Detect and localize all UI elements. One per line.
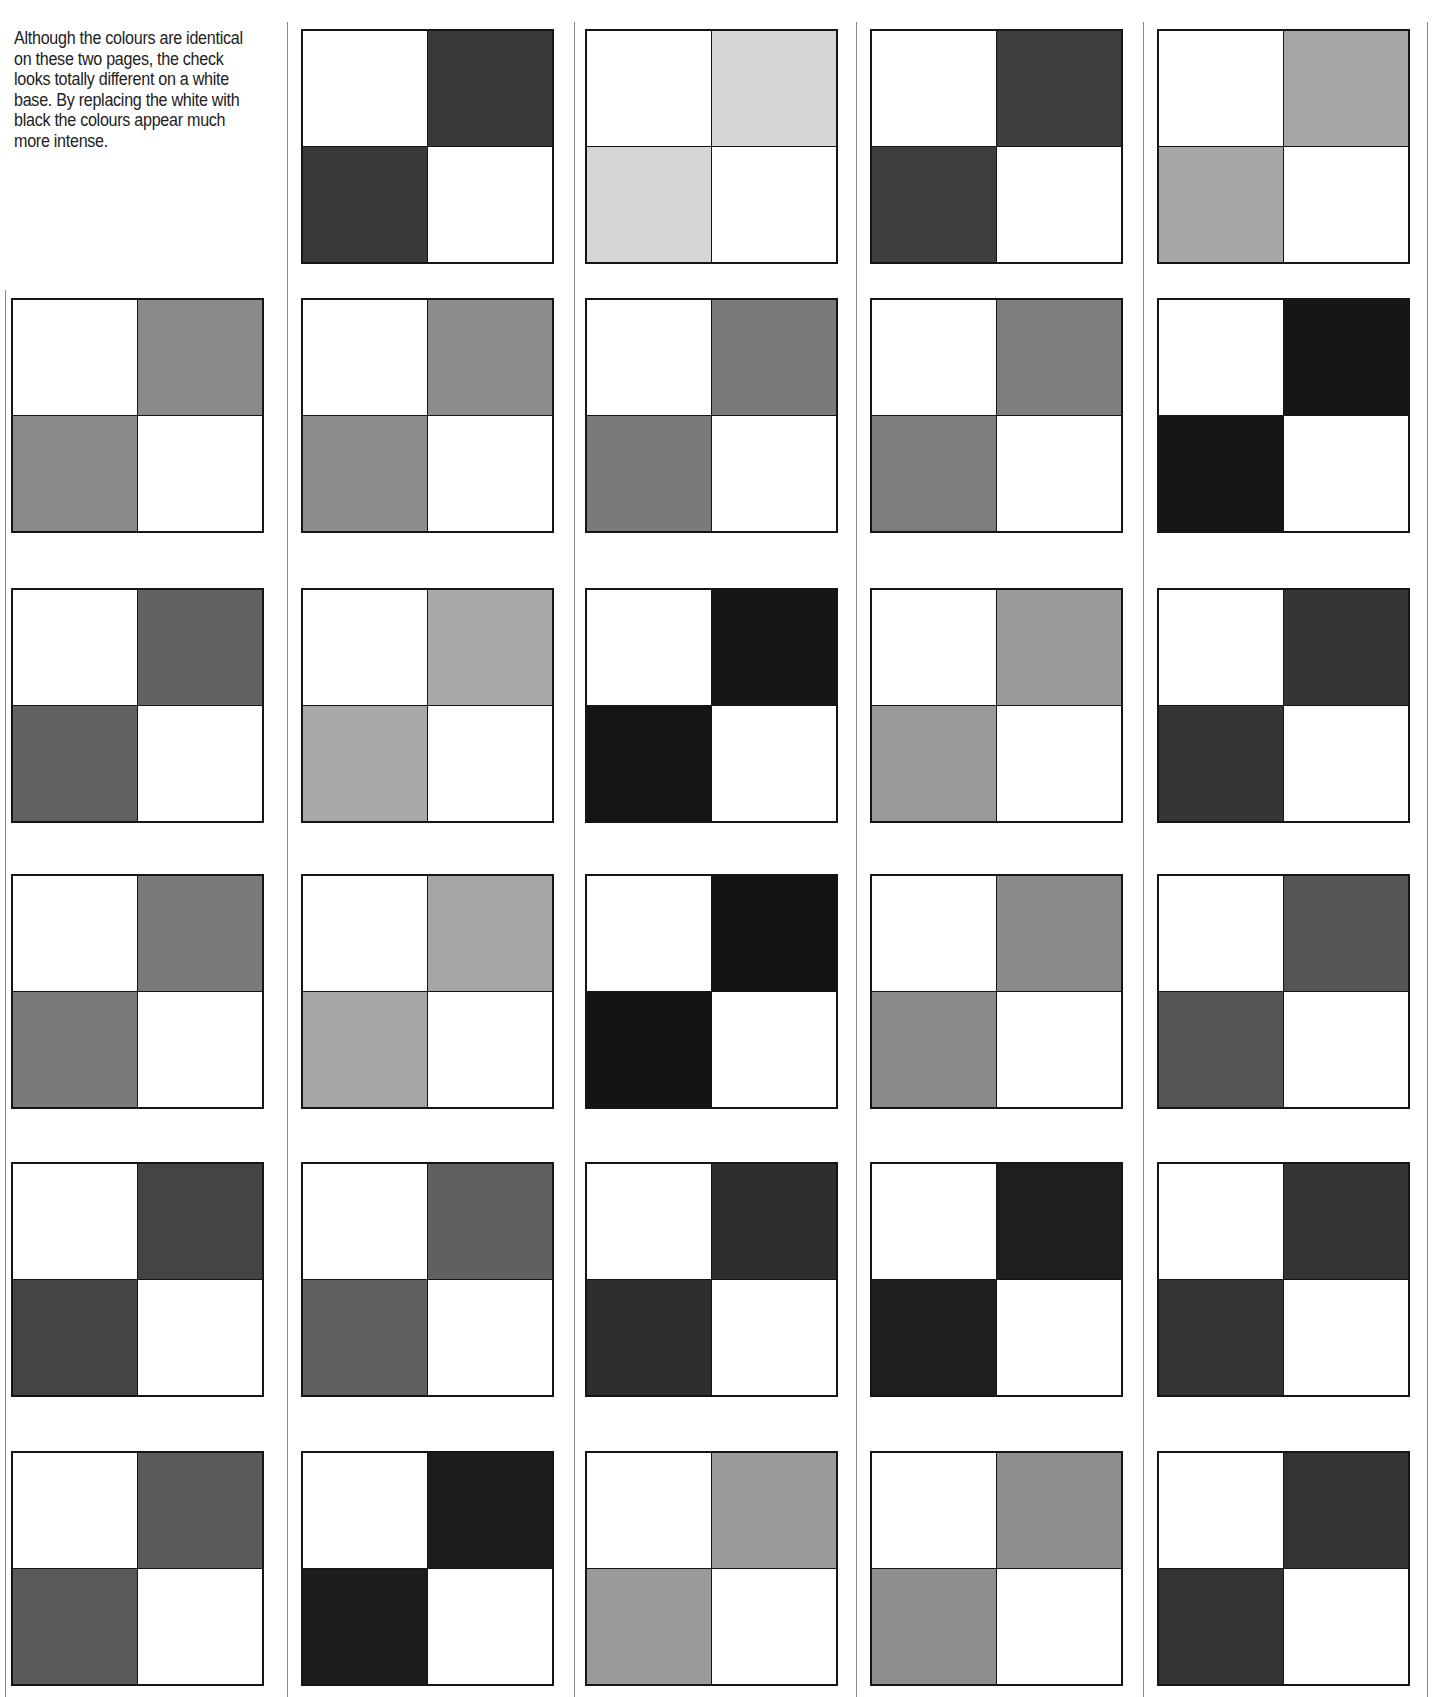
swatch-tone-cell [303,1569,428,1685]
swatch-tone-cell [872,992,997,1108]
swatch-white-cell [712,1280,837,1396]
swatch-tone-cell [587,992,712,1108]
check-swatch [585,874,838,1109]
swatch-tone-cell [138,1453,263,1569]
swatch-white-cell [138,1280,263,1396]
swatch-tone-cell [138,1164,263,1280]
swatch-white-cell [587,876,712,992]
swatch-white-cell [13,300,138,416]
swatch-tone-cell [1284,1164,1409,1280]
swatch-tone-cell [1284,876,1409,992]
check-swatch [11,588,264,823]
swatch-tone-cell [1159,1569,1284,1685]
swatch-white-cell [872,300,997,416]
swatch-tone-cell [1159,147,1284,263]
swatch-tone-cell [13,1569,138,1685]
swatch-tone-cell [1159,416,1284,532]
swatch-tone-cell [997,1164,1122,1280]
swatch-tone-cell [13,1280,138,1396]
swatch-tone-cell [13,992,138,1108]
swatch-white-cell [1284,147,1409,263]
swatch-tone-cell [997,300,1122,416]
swatch-white-cell [1284,992,1409,1108]
swatch-white-cell [997,706,1122,822]
swatch-tone-cell [1284,1453,1409,1569]
check-swatch [585,1451,838,1686]
swatch-white-cell [1159,1453,1284,1569]
swatch-tone-cell [712,31,837,147]
swatch-tone-cell [303,706,428,822]
swatch-tone-cell [872,416,997,532]
check-swatch [11,298,264,533]
swatch-tone-cell [138,300,263,416]
swatch-tone-cell [303,992,428,1108]
swatch-white-cell [712,1569,837,1685]
swatch-white-cell [303,876,428,992]
check-swatch [1157,1162,1410,1397]
swatch-white-cell [712,147,837,263]
check-swatch [870,874,1123,1109]
swatch-white-cell [1159,1164,1284,1280]
swatch-tone-cell [587,1280,712,1396]
check-swatch [1157,298,1410,533]
swatch-white-cell [712,992,837,1108]
column-divider [287,22,288,1697]
swatch-tone-cell [872,706,997,822]
check-swatch [301,29,554,264]
swatch-white-cell [1159,300,1284,416]
swatch-tone-cell [587,706,712,822]
swatch-tone-cell [1159,1280,1284,1396]
swatch-white-cell [587,31,712,147]
check-swatch [11,874,264,1109]
swatch-tone-cell [13,706,138,822]
swatch-white-cell [303,1164,428,1280]
check-swatch [1157,29,1410,264]
swatch-tone-cell [712,1453,837,1569]
swatch-white-cell [997,992,1122,1108]
swatch-tone-cell [1284,590,1409,706]
swatch-tone-cell [1284,300,1409,416]
check-swatch [585,298,838,533]
swatch-tone-cell [428,876,553,992]
swatch-tone-cell [428,300,553,416]
swatch-tone-cell [1159,706,1284,822]
swatch-white-cell [1159,876,1284,992]
check-swatch [585,588,838,823]
swatch-white-cell [428,147,553,263]
check-swatch [301,298,554,533]
column-divider [574,22,575,1697]
swatch-white-cell [872,1453,997,1569]
swatch-white-cell [303,300,428,416]
column-divider [1427,22,1428,1697]
swatch-white-cell [13,1453,138,1569]
swatch-white-cell [1284,416,1409,532]
swatch-white-cell [997,416,1122,532]
check-swatch [585,29,838,264]
swatch-white-cell [1284,1280,1409,1396]
check-swatch [11,1451,264,1686]
swatch-tone-cell [997,1453,1122,1569]
swatch-tone-cell [872,1569,997,1685]
swatch-tone-cell [303,416,428,532]
swatch-tone-cell [587,416,712,532]
swatch-tone-cell [712,876,837,992]
swatch-white-cell [138,706,263,822]
swatch-white-cell [138,1569,263,1685]
swatch-tone-cell [997,31,1122,147]
check-swatch [1157,588,1410,823]
swatch-white-cell [303,1453,428,1569]
swatch-tone-cell [13,416,138,532]
check-swatch [1157,1451,1410,1686]
swatch-tone-cell [587,1569,712,1685]
swatch-white-cell [1159,590,1284,706]
check-swatch [870,1162,1123,1397]
swatch-white-cell [1284,1569,1409,1685]
swatch-tone-cell [712,300,837,416]
column-divider [5,290,6,1697]
swatch-white-cell [13,876,138,992]
column-divider [856,22,857,1697]
swatch-white-cell [997,1280,1122,1396]
check-swatch [870,588,1123,823]
swatch-white-cell [872,31,997,147]
check-swatch [301,1162,554,1397]
